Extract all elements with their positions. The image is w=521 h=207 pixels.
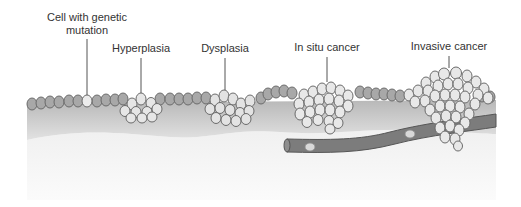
label-in-situ-cancer: In situ cancer [294,41,359,54]
label-cell-with-genetic-mutation: Cell with genetic mutation [47,11,127,37]
label-line-2: mutation [47,24,127,37]
mutated-cell [82,95,92,107]
label-text: Hyperplasia [112,42,170,55]
label-invasive-cancer: Invasive cancer [411,40,487,53]
label-line-1: Cell with genetic [47,11,127,24]
label-text: Invasive cancer [411,40,487,53]
connective-tissue [27,130,496,200]
label-text: Dysplasia [201,42,249,55]
dysplasia-cells [205,90,255,127]
label-dysplasia: Dysplasia [201,42,249,55]
label-text: In situ cancer [294,41,359,54]
label-hyperplasia: Hyperplasia [112,42,170,55]
